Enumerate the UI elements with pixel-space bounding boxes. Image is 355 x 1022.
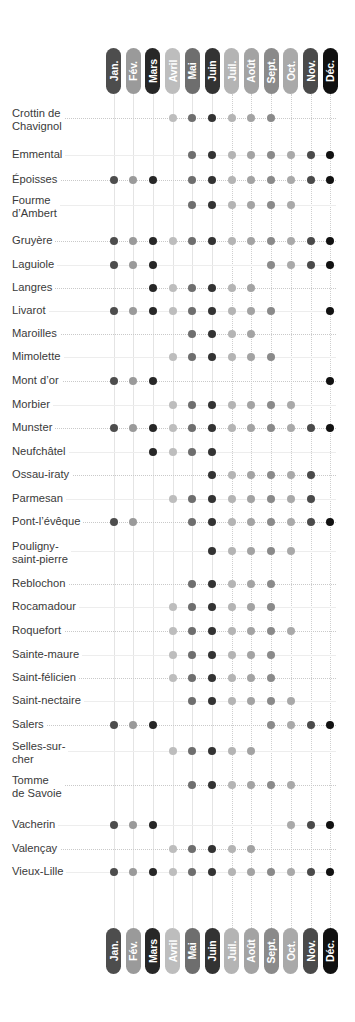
month-label: Jan. [108,61,119,82]
availability-dot [208,781,216,789]
availability-dot [208,747,216,755]
cheese-row-label: Pouligny- saint-pierre [12,540,71,565]
availability-dot [247,307,255,315]
month-pill-top-3[interactable]: Avril [165,48,180,94]
month-pill-top-10[interactable]: Nov. [303,48,318,94]
month-pill-bottom-1[interactable]: Fév. [126,928,141,974]
row-gridline [12,334,336,335]
availability-dot [326,868,334,876]
availability-dot [228,674,236,682]
month-pill-top-6[interactable]: Juil. [224,48,239,94]
month-pill-bottom-7[interactable]: Août [244,928,259,974]
month-pill-bottom-5[interactable]: Juin [205,928,220,974]
month-pill-top-4[interactable]: Mai [185,48,200,94]
availability-dot [129,424,137,432]
availability-dot [228,697,236,705]
month-pill-top-1[interactable]: Fév. [126,48,141,94]
month-pill-bottom-0[interactable]: Jan. [106,928,121,974]
month-pill-top-5[interactable]: Juin [205,48,220,94]
availability-dot [129,261,137,269]
availability-dot [208,697,216,705]
availability-dot [267,307,275,315]
availability-dot [228,401,236,409]
month-pill-bottom-6[interactable]: Juil. [224,928,239,974]
month-pill-bottom-10[interactable]: Nov. [303,928,318,974]
availability-dot [188,580,196,588]
cheese-row-label: Ossau-iraty [12,468,72,481]
month-label: Mai [187,942,198,959]
availability-dot [188,627,196,635]
month-pill-bottom-8[interactable]: Sept. [264,928,279,974]
month-label: Oct. [286,941,297,961]
cheese-row-label: Saint-nectaire [12,694,84,707]
availability-dot [149,448,157,456]
availability-dot [307,721,315,729]
month-label: Nov. [305,60,316,82]
month-pill-bottom-2[interactable]: Mars [145,928,160,974]
month-pill-top-0[interactable]: Jan. [106,48,121,94]
availability-dot [287,697,295,705]
month-gridline [133,94,134,928]
availability-dot [188,651,196,659]
month-pill-bottom-3[interactable]: Avril [165,928,180,974]
cheese-row-label: Livarot [12,304,49,317]
month-pill-top-9[interactable]: Oct. [283,48,298,94]
month-pill-bottom-4[interactable]: Mai [185,928,200,974]
month-gridline [271,94,272,928]
availability-dot [307,471,315,479]
cheese-row-label: Rocamadour [12,600,79,613]
month-label: Juin [207,940,218,961]
availability-dot [287,176,295,184]
availability-dot [247,495,255,503]
availability-dot [208,627,216,635]
availability-dot [326,821,334,829]
month-gridline [330,94,331,928]
availability-dot [169,114,177,122]
availability-dot [208,114,216,122]
availability-dot [129,821,137,829]
availability-dot [110,721,118,729]
availability-dot [307,424,315,432]
availability-dot [149,261,157,269]
month-pill-top-7[interactable]: Août [244,48,259,94]
availability-dot [326,377,334,385]
availability-dot [208,547,216,555]
month-label: Sept. [266,58,277,83]
month-pill-bottom-11[interactable]: Déc. [323,928,338,974]
availability-dot [208,201,216,209]
availability-dot [247,176,255,184]
availability-dot [129,237,137,245]
availability-dot [247,330,255,338]
availability-dot [149,868,157,876]
month-pill-top-11[interactable]: Déc. [323,48,338,94]
month-label: Fév. [128,61,139,81]
availability-dot [129,307,137,315]
availability-dot [228,845,236,853]
cheese-row-label: Mont d’or [12,374,62,387]
month-pill-bottom-9[interactable]: Oct. [283,928,298,974]
availability-dot [307,868,315,876]
availability-dot [208,176,216,184]
availability-dot [267,401,275,409]
availability-dot [188,674,196,682]
month-pill-top-8[interactable]: Sept. [264,48,279,94]
availability-dot [287,547,295,555]
availability-dot [267,674,275,682]
month-gridline [114,94,115,928]
availability-dot [267,176,275,184]
availability-dot [228,330,236,338]
month-pill-top-2[interactable]: Mars [145,48,160,94]
cheese-row-label: Morbier [12,398,53,411]
availability-dot [188,353,196,361]
availability-dot [247,603,255,611]
availability-dot [149,284,157,292]
cheese-row-label: Munster [12,421,55,434]
cheese-row-label: Parmesan [12,492,66,505]
availability-dot [247,237,255,245]
cheese-row-label: Saint-félicien [12,671,79,684]
availability-dot [287,261,295,269]
month-label: Juil. [226,941,237,962]
availability-dot [208,237,216,245]
availability-dot [287,518,295,526]
month-gridline [153,94,154,928]
